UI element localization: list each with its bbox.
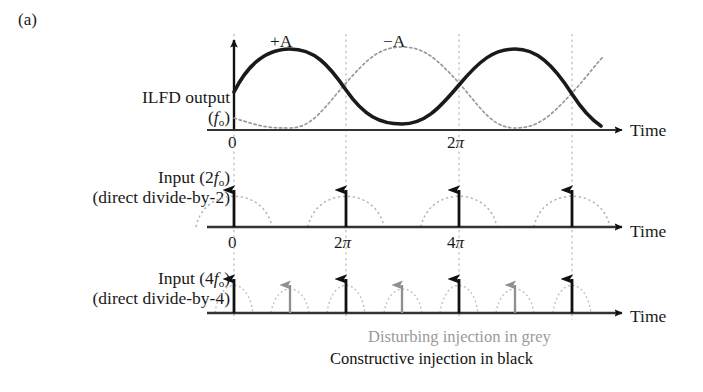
panel-ilfd-output (207, 40, 622, 130)
injection-arrows-row2 (234, 190, 572, 227)
waveform-minus-a-dotted (234, 47, 604, 128)
guide-lines (234, 34, 572, 320)
panel-input-2f0 (196, 190, 622, 227)
arcs-row2 (196, 196, 610, 227)
disturbing-arrows-row3 (290, 285, 515, 313)
figure-canvas (0, 0, 703, 392)
panel-input-4f0 (207, 279, 622, 313)
waveform-plus-a-solid (234, 49, 601, 126)
